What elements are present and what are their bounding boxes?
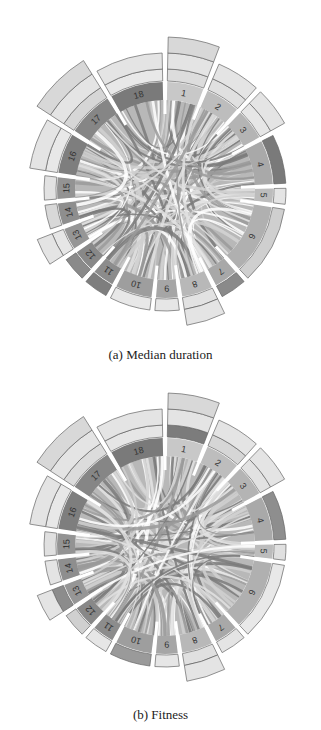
chord-diagram-fitness: 123456789101112131415161718 <box>0 366 321 696</box>
segment-15: 15 <box>44 176 76 200</box>
panel-b: 123456789101112131415161718 <box>0 366 321 696</box>
segment-label: 5 <box>258 548 268 554</box>
segment-9: 9 <box>155 279 179 311</box>
segment-label: 9 <box>164 640 169 650</box>
segment-label: 9 <box>164 284 169 294</box>
chord-diagram-median-duration: 123456789101112131415161718 <box>0 0 321 340</box>
panel-a: 123456789101112131415161718 <box>0 0 321 340</box>
segment-9: 9 <box>155 635 179 667</box>
segment-label: 5 <box>258 192 268 198</box>
segment-14: 14 <box>45 201 80 229</box>
caption-a: (a) Median duration <box>0 347 321 363</box>
segment-label: 15 <box>61 539 71 549</box>
segment-15: 15 <box>44 532 76 556</box>
caption-b: (b) Fitness <box>0 707 321 723</box>
segment-14: 14 <box>45 557 80 585</box>
segment-label: 15 <box>61 183 71 193</box>
